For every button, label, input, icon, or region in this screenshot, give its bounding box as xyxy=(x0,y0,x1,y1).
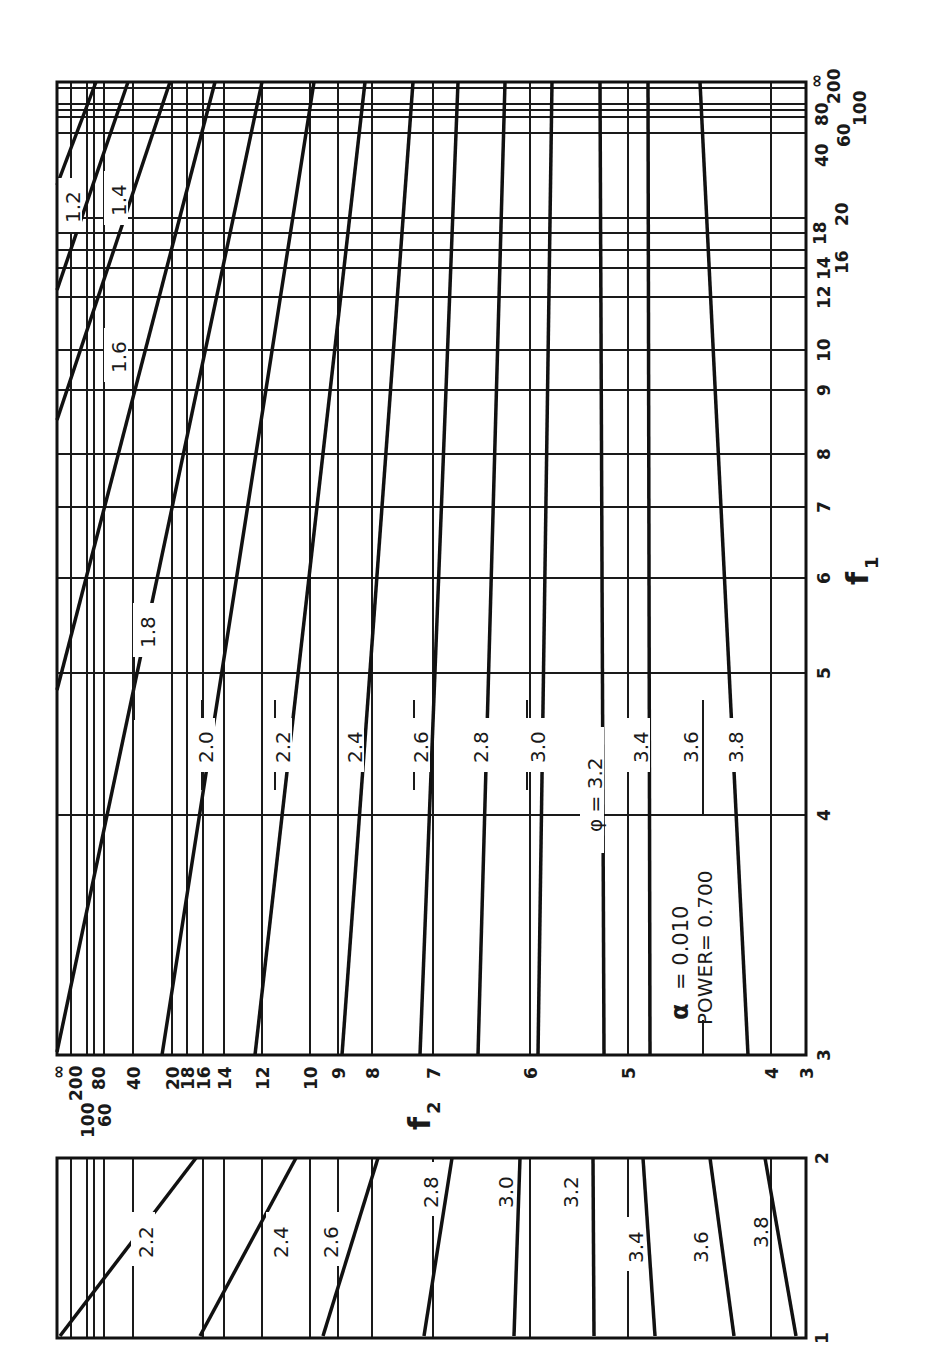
phi-curve xyxy=(420,82,458,1055)
phi-label: 2.8 xyxy=(469,731,493,763)
inset-curve-labels: 2.22.42.62.83.03.23.43.63.8 xyxy=(131,1162,773,1271)
f2-tick-label: 80 xyxy=(89,1066,109,1090)
phi-curve xyxy=(342,82,413,1055)
phi-label: 2.4 xyxy=(343,731,367,763)
inset-phi-curve xyxy=(593,1158,594,1336)
f2-tick-label: 6 xyxy=(521,1067,541,1079)
phi-label: 3.0 xyxy=(526,731,550,763)
f1-tick-label: 9 xyxy=(814,384,834,396)
f2-tick-label: 60 xyxy=(95,1103,115,1127)
f2-tick-label: 3 xyxy=(797,1067,817,1079)
f1-label-main: f xyxy=(840,571,875,585)
f1-tick-label: 12 xyxy=(814,285,834,309)
f1-tick-label: 60 xyxy=(834,123,854,147)
f1-tick-label: 7 xyxy=(814,501,834,513)
f1-tick-label: 80 xyxy=(812,102,832,126)
inset-phi-curve xyxy=(60,1158,196,1336)
f2-tick-label: 4 xyxy=(762,1067,782,1079)
inset-phi-label: 2.6 xyxy=(319,1226,343,1258)
f2-tick-label: 200 xyxy=(66,1065,86,1101)
phi-label: 1.6 xyxy=(107,341,131,373)
chart-root: 1.21.41.61.82.02.22.42.62.83.0φ = 3.23.4… xyxy=(0,0,935,1346)
power-chart: 1.21.41.61.82.02.22.42.62.83.0φ = 3.23.4… xyxy=(0,0,935,1346)
inset-phi-label: 2.2 xyxy=(134,1226,158,1258)
phi-curve xyxy=(162,82,314,1055)
f1-tick-label: 40 xyxy=(812,143,832,167)
f2-tick-label: 8 xyxy=(363,1067,383,1079)
inset-phi-label: 3.8 xyxy=(749,1216,773,1248)
phi-label: 1.2 xyxy=(61,191,85,223)
alpha-symbol: α xyxy=(666,1004,694,1021)
phi-label: 1.8 xyxy=(136,616,160,648)
inset-phi-label: 2.4 xyxy=(269,1226,293,1258)
f1-axis-label: f 1 xyxy=(840,556,882,585)
inset-tick-labels: 21 xyxy=(812,1152,832,1344)
inset-phi-label: 3.0 xyxy=(494,1176,518,1208)
phi-label: 3.4 xyxy=(629,731,653,763)
f1-tick-label: 10 xyxy=(814,338,834,362)
inset-f1-tick-label: 1 xyxy=(812,1332,832,1344)
power-value: POWER= 0.700 xyxy=(693,871,717,1025)
phi-curve xyxy=(538,82,552,1055)
f1-tick-label: 14 xyxy=(814,256,834,280)
f1-tick-label: 3 xyxy=(814,1049,834,1061)
f1-tick-label: 100 xyxy=(850,90,870,126)
f2-tick-label: ∞ xyxy=(48,1065,68,1079)
f2-tick-label: 5 xyxy=(619,1067,639,1079)
f2-tick-label: 16 xyxy=(194,1066,214,1090)
f1-tick-label: 4 xyxy=(814,809,834,821)
phi-label: 2.6 xyxy=(409,731,433,763)
main-curves xyxy=(57,82,748,1055)
f2-tick-label: 14 xyxy=(215,1066,235,1090)
inset-phi-curve xyxy=(710,1158,734,1336)
f1-tick-label: 16 xyxy=(832,250,852,274)
f1-tick-label: 20 xyxy=(832,202,852,226)
phi-label: 1.4 xyxy=(107,184,131,216)
f2-label-sub: 2 xyxy=(423,1101,444,1114)
phi-curve xyxy=(478,82,505,1055)
f2-tick-label: 12 xyxy=(253,1066,273,1090)
f2-tick-label: 9 xyxy=(329,1067,349,1079)
f1-tick-label: 200 xyxy=(824,68,844,104)
annotation-alpha-power: α = 0.010 POWER= 0.700 xyxy=(666,871,717,1025)
inset-phi-label: 3.4 xyxy=(624,1231,648,1263)
f1-tick-label: 5 xyxy=(814,667,834,679)
phi-curve xyxy=(648,82,650,1055)
f2-tick-label: 10 xyxy=(301,1066,321,1090)
f1-tick-label: ∞ xyxy=(806,74,826,88)
phi-label: φ = 3.2 xyxy=(583,758,607,832)
inset-phi-label: 3.6 xyxy=(689,1231,713,1263)
f1-label-sub: 1 xyxy=(861,556,882,569)
f1-tick-label: 8 xyxy=(814,448,834,460)
inset-phi-label: 3.2 xyxy=(559,1176,583,1208)
f1-tick-label: 18 xyxy=(810,221,830,245)
f2-tick-label: 40 xyxy=(124,1066,144,1090)
f2-tick-label: 7 xyxy=(424,1067,444,1079)
phi-label: 3.8 xyxy=(724,731,748,763)
inset-f1-tick-label: 2 xyxy=(812,1152,832,1164)
f2-axis-label: f 2 xyxy=(402,1101,444,1130)
phi-curve xyxy=(57,82,215,690)
alpha-value: = 0.010 xyxy=(669,906,693,990)
phi-label: 3.6 xyxy=(679,731,703,763)
main-curve-labels: 1.21.41.61.82.02.22.42.62.83.0φ = 3.23.4… xyxy=(58,171,748,1055)
inset-phi-label: 2.8 xyxy=(419,1176,443,1208)
phi-curve xyxy=(600,82,604,1055)
f1-tick-label: 6 xyxy=(814,572,834,584)
phi-label: 2.0 xyxy=(194,731,218,763)
f2-label-main: f xyxy=(402,1116,437,1130)
phi-label: 2.2 xyxy=(271,731,295,763)
